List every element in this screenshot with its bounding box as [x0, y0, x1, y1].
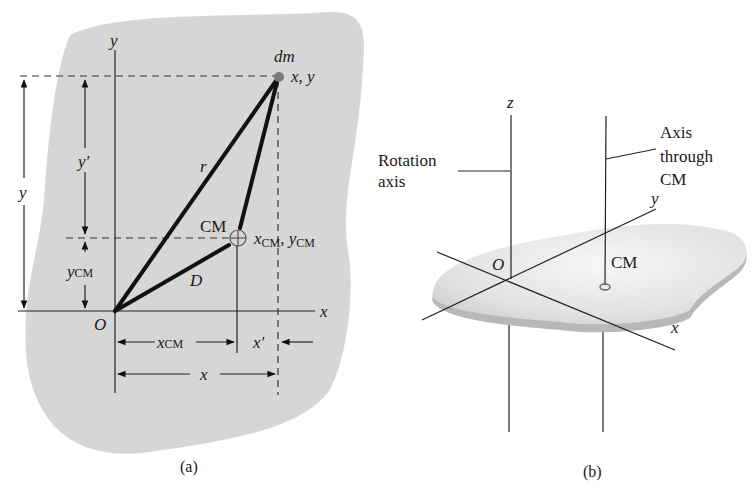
z-axis-label: z	[506, 93, 514, 112]
y-axis-label: y	[108, 31, 118, 50]
cm-3d-label: CM	[611, 253, 637, 272]
origin-label: O	[94, 315, 106, 334]
cm-axis-label-2: through	[660, 147, 713, 166]
x-axis-3d-label: x	[670, 318, 679, 337]
r-label: r	[200, 157, 207, 176]
cm-label: CM	[200, 217, 226, 236]
rotation-axis-label-2: axis	[378, 172, 405, 191]
parallel-axis-figure: y x O dm x, y CM xCM, yCM r D y	[0, 0, 755, 498]
dm-label: dm	[274, 47, 295, 66]
x-axis-label: x	[319, 302, 328, 321]
center-of-mass-symbol-icon	[230, 230, 246, 246]
y-axis-3d-label: y	[649, 189, 659, 208]
dim-x-prime-label: x′	[252, 333, 265, 352]
figure-b: x y z O CM Rotation axis Axis through CM…	[378, 93, 747, 481]
dim-x-label: x	[199, 365, 208, 384]
dm-coords-label: x, y	[290, 67, 315, 86]
origin-3d-label: O	[492, 255, 504, 274]
dim-y-label: y	[17, 183, 27, 202]
caption-a: (a)	[180, 458, 198, 476]
dim-y-prime-label: y′	[76, 152, 90, 171]
mass-element-dot	[274, 72, 284, 82]
cm-axis-label-1: Axis	[660, 123, 692, 142]
figure-a: y x O dm x, y CM xCM, yCM r D y	[17, 12, 364, 476]
slab-top-surface	[432, 224, 747, 324]
rotation-axis-label-1: Rotation	[378, 151, 437, 170]
D-label: D	[189, 271, 203, 290]
cm-axis-label-3: CM	[660, 170, 686, 189]
cm-axis-callout-line	[606, 149, 656, 159]
caption-b: (b)	[583, 463, 602, 481]
